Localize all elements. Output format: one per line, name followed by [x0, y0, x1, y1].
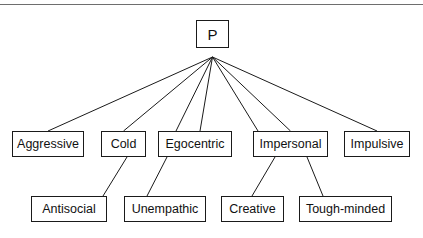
node-tough-minded[interactable]: Tough-minded [299, 196, 392, 222]
node-antisocial-label: Antisocial [42, 203, 96, 216]
node-cold-label: Cold [111, 138, 137, 151]
diagram-canvas: P Aggressive Cold Egocentric Impersonal … [0, 0, 423, 238]
node-aggressive[interactable]: Aggressive [12, 131, 84, 157]
node-creative-label: Creative [229, 203, 276, 216]
node-unempathic-label: Unempathic [132, 203, 199, 216]
node-unempathic[interactable]: Unempathic [124, 196, 206, 222]
node-egocentric[interactable]: Egocentric [158, 131, 232, 157]
node-tough-minded-label: Tough-minded [306, 203, 385, 216]
node-aggressive-label: Aggressive [17, 138, 79, 151]
node-impulsive[interactable]: Impulsive [344, 131, 410, 157]
node-creative[interactable]: Creative [221, 196, 284, 222]
edge-P-to-egocentric [176, 57, 213, 131]
edge-egocentric-to-unempathic [147, 157, 167, 196]
node-p-label: P [207, 27, 217, 42]
edge-P-to-impulsive [213, 57, 378, 131]
edge-impersonal-to-creative [252, 157, 275, 196]
node-impersonal[interactable]: Impersonal [253, 131, 328, 157]
node-impersonal-label: Impersonal [260, 138, 322, 151]
node-impulsive-label: Impulsive [351, 138, 404, 151]
node-antisocial[interactable]: Antisocial [31, 196, 107, 222]
node-cold[interactable]: Cold [101, 131, 146, 157]
edge-P-to-cold [124, 57, 213, 131]
edge-P-to-aggressive [48, 57, 213, 131]
node-p[interactable]: P [196, 20, 229, 48]
node-egocentric-label: Egocentric [165, 138, 224, 151]
edge-cold-to-antisocial [103, 157, 127, 196]
edge-impersonal-to-toughminded [307, 157, 323, 196]
edge-P-to-egocentric2 [200, 57, 213, 131]
